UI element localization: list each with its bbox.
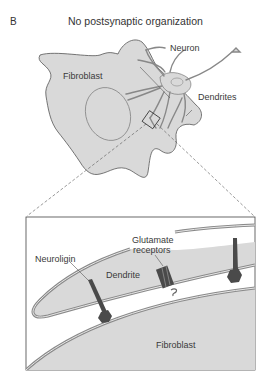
glutamate-receptors-label-line1: Glutamate (132, 236, 174, 245)
dendrites-label: Dendrites (198, 93, 237, 102)
neuroligin-label: Neuroligin (35, 255, 76, 264)
dendrite-label: Dendrite (106, 271, 140, 280)
fibroblast-label: Fibroblast (63, 72, 103, 81)
inset-fibroblast-label: Fibroblast (156, 341, 196, 350)
glutamate-receptors-label-line2: receptors (133, 246, 171, 255)
neuron-label: Neuron (170, 44, 200, 53)
diagram-canvas (0, 0, 270, 386)
zoom-dashed-line-right (157, 124, 254, 216)
